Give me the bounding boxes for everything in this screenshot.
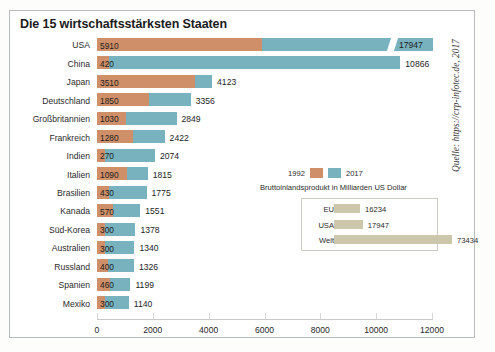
x-axis-tick-label: 4000 [199,325,218,335]
x-axis-line [97,319,433,320]
value-label-1992: 570 [100,207,114,217]
value-label-2017: 1378 [140,225,159,235]
value-label-1992: 430 [100,188,114,198]
inset-row-label: Welt [306,236,334,245]
inset-row-label: EU [306,205,334,214]
value-label-2017: 17947 [399,40,423,50]
value-label-2017: 3356 [196,96,215,106]
value-label-2017: 10866 [405,59,429,69]
value-label-1992: 300 [100,299,114,309]
category-label: USA [14,40,90,50]
legend-label-2017: 2017 [346,169,363,178]
source-note: Quelle: https://crp-infotec.de, 2017 [451,39,461,172]
legend-swatch-2017 [328,168,341,178]
bar-2017 [97,56,400,69]
x-axis-tick-label: 0 [95,325,100,335]
x-axis-tick [376,313,377,319]
category-label: Russland [14,262,90,272]
category-label: Süd-Korea [14,225,90,235]
value-label-2017: 2422 [170,133,189,143]
bar-1992 [97,38,262,51]
value-label-2017: 1775 [152,188,171,198]
inset-row-value: 73434 [457,236,478,245]
value-label-1992: 420 [100,59,114,69]
value-label-1992: 1850 [100,96,119,106]
value-label-1992: 460 [100,280,114,290]
value-label-2017: 1326 [139,262,158,272]
x-axis-tick-label: 8000 [311,325,330,335]
x-axis-tick [265,313,266,319]
legend-subtitle: Bruttoinlandsprodukt in Milliarden US Do… [260,183,407,192]
x-axis-tick-label: 6000 [255,325,274,335]
category-label: Großbritannien [14,114,90,124]
value-label-2017: 1340 [139,243,158,253]
inset-row-bar [334,220,363,229]
value-label-1992: 3510 [100,78,119,88]
category-label: Kanada [14,206,90,216]
value-label-2017: 1815 [153,170,172,180]
value-label-1992: 5910 [100,41,119,51]
value-label-1992: 300 [100,244,114,254]
value-label-1992: 1030 [100,114,119,124]
value-label-1992: 1090 [100,170,119,180]
value-label-1992: 300 [100,225,114,235]
value-label-2017: 4123 [217,77,236,87]
category-label: Brasilien [14,188,90,198]
category-label: Australien [14,243,90,253]
category-label: Spanien [14,280,90,290]
category-label: Mexiko [14,299,90,309]
x-axis-tick [432,313,433,319]
x-axis-tick-label: 12000 [420,325,444,335]
inset-row-value: 17947 [368,221,389,230]
x-axis-tick [320,313,321,319]
value-label-2017: 2849 [182,114,201,124]
value-label-1992: 270 [100,151,114,161]
category-label: Japan [14,77,90,87]
value-label-2017: 1551 [145,206,164,216]
inset-row-value: 16234 [365,205,386,214]
legend-label-1992: 1992 [288,169,305,178]
category-label: China [14,59,90,69]
category-label: Indien [14,151,90,161]
x-axis-tick-label: 2000 [143,325,162,335]
x-axis-tick [153,313,154,319]
category-label: Italien [14,170,90,180]
category-label: Frankreich [14,133,90,143]
value-label-1992: 1280 [100,133,119,143]
value-label-1992: 400 [100,262,114,272]
inset-row-bar [334,235,452,244]
legend-swatch-1992 [310,168,323,178]
x-axis-tick [209,313,210,319]
page-background: Die 15 wirtschaftsstärksten Staaten USA5… [0,0,495,352]
category-label: Deutschland [14,96,90,106]
chart-legend: 1992 2017 [288,168,363,178]
value-label-2017: 1140 [134,299,152,309]
value-label-2017: 2074 [160,151,179,161]
value-label-2017: 1199 [135,280,153,290]
inset-row-bar [334,204,360,213]
inset-row-label: USA [306,221,334,230]
x-axis-tick [97,313,98,319]
chart-plot-area: USA591017947China42010866Japan35104123De… [0,0,495,352]
x-axis-tick-label: 10000 [364,325,388,335]
